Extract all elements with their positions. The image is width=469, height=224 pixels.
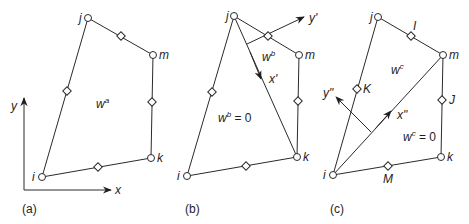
x-prime-arrow — [250, 52, 261, 79]
corner-node-j — [231, 13, 238, 20]
midside-node — [208, 88, 216, 96]
element-outline-b — [187, 16, 299, 176]
x-axis-label: x — [114, 183, 122, 197]
panel-a: y x i j m k wa (a) — [10, 11, 169, 216]
midside-node — [94, 163, 102, 171]
midside-node — [242, 162, 250, 170]
corner-node-j — [85, 15, 92, 22]
corner-node-i — [330, 172, 337, 179]
corner-node-i — [184, 173, 191, 180]
node-label-m: m — [305, 48, 315, 62]
node-label-j: j — [77, 11, 82, 25]
corner-node-k — [438, 154, 445, 161]
midside-node-I — [407, 32, 415, 40]
panel-b: y' x' i j m k wb wb = 0 (b) — [177, 9, 318, 216]
midside-label-M: M — [383, 172, 393, 186]
element-outline-c — [333, 17, 443, 175]
midside-label-I: I — [413, 19, 417, 33]
node-label-i: i — [177, 169, 180, 183]
node-label-k: k — [447, 150, 454, 164]
corner-node-j — [375, 14, 382, 21]
field-label-wc: wc — [391, 62, 404, 77]
corner-node-m — [150, 52, 157, 59]
field-label-wa: wa — [96, 96, 110, 111]
corner-node-m — [440, 52, 447, 59]
field-label-wb-zero: wb = 0 — [218, 110, 252, 125]
midside-label-K: K — [363, 82, 372, 96]
node-label-i: i — [323, 168, 326, 182]
corner-node-k — [148, 155, 155, 162]
node-label-k: k — [157, 151, 164, 165]
field-label-wc-zero: wc = 0 — [403, 129, 436, 144]
x-double-prime-arrow — [375, 111, 391, 129]
caption-a: (a) — [22, 202, 37, 216]
node-label-m: m — [449, 48, 459, 62]
corner-node-i — [39, 174, 46, 181]
x-double-prime-label: x" — [396, 108, 408, 122]
corner-node-k — [294, 154, 301, 161]
midside-node-J — [438, 96, 446, 104]
midside-node — [294, 97, 302, 105]
y-axis-label: y — [10, 99, 18, 113]
node-label-m: m — [159, 48, 169, 62]
panel-c: y" x" I J M K i j m k wc wc = 0 (c) — [322, 10, 459, 216]
node-label-j: j — [368, 10, 373, 24]
field-label-wb: wb — [262, 49, 276, 64]
midside-label-J: J — [448, 93, 456, 107]
node-label-i: i — [32, 170, 35, 184]
y-prime-label: y' — [308, 11, 318, 25]
x-prime-label: x' — [268, 72, 278, 86]
quadrilateral-element-diagram: y x i j m k wa (a) y' x' — [0, 0, 469, 224]
node-label-j: j — [224, 9, 229, 23]
y-double-prime-label: y" — [322, 86, 334, 100]
midside-node-K — [353, 85, 361, 93]
midside-node-M — [384, 162, 392, 170]
caption-b: (b) — [185, 202, 200, 216]
corner-node-m — [296, 52, 303, 59]
y-prime-arrow — [247, 17, 304, 44]
node-label-k: k — [303, 150, 310, 164]
midside-node — [63, 87, 71, 95]
caption-c: (c) — [330, 202, 344, 216]
midside-node — [148, 98, 156, 106]
